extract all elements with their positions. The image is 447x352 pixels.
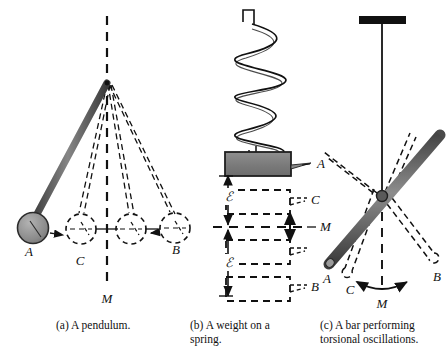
spring-label-C: C xyxy=(311,192,320,207)
spring-ghost-pointer-C xyxy=(290,198,307,205)
torsion-ghost-bar-upper-left xyxy=(324,152,381,199)
pendulum-panel: A C B M xyxy=(18,16,191,306)
torsion-label-A: A xyxy=(322,271,331,286)
spring-ghost-pointer-B xyxy=(290,285,307,292)
spring-top-hook xyxy=(243,10,254,24)
ceiling-support-bar xyxy=(359,16,406,24)
spring-ghost-block-B xyxy=(226,277,290,301)
torsion-label-C: C xyxy=(346,282,355,297)
caption-panel-b: (b) A weight on a spring. xyxy=(190,318,286,346)
pendulum-label-C: C xyxy=(76,253,85,268)
pendulum-label-M: M xyxy=(101,291,114,306)
pendulum-bob xyxy=(18,213,49,244)
pendulum-label-B: B xyxy=(172,242,180,257)
torsion-panel: A C B M xyxy=(322,16,441,311)
caption-panel-a: (a) A pendulum. xyxy=(56,318,206,332)
torsion-label-B: B xyxy=(433,269,441,284)
spring-label-M: M xyxy=(319,219,332,234)
pendulum-ghost-bob-ticks xyxy=(70,221,186,235)
spring-ghost-pointer-mid xyxy=(290,248,307,255)
figure-captions: (a) A pendulum. (b) A weight on a spring… xyxy=(0,314,447,352)
caption-panel-c: (c) A bar performing torsional oscillati… xyxy=(320,318,444,346)
spring-label-A: A xyxy=(316,156,325,171)
physics-oscillation-figure: A C B M A xyxy=(0,0,447,352)
spring-panel: A C M xyxy=(213,10,332,301)
amplitude-upper-label: ℰ xyxy=(225,189,234,204)
pendulum-label-A: A xyxy=(24,244,33,259)
torsion-pivot xyxy=(377,191,388,202)
amplitude-lower-label: ℰ xyxy=(225,255,234,270)
helical-spring xyxy=(235,24,286,157)
figure-canvas: A C B M A xyxy=(0,0,447,352)
torsion-label-M: M xyxy=(376,296,389,311)
weight-block xyxy=(225,152,291,176)
pendulum-pivot xyxy=(105,81,110,86)
spring-label-B: B xyxy=(311,279,319,294)
